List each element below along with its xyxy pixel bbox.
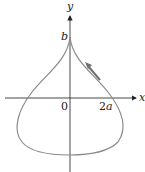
y-axis-label: y bbox=[66, 0, 74, 13]
x-tick-variable: a bbox=[106, 100, 113, 113]
direction-arrow-icon bbox=[85, 62, 100, 80]
x-tick-label: 2a bbox=[99, 100, 113, 113]
x-tick-coefficient: 2 bbox=[99, 100, 106, 113]
origin-label: 0 bbox=[61, 100, 68, 113]
curve-diagram: y x b 0 2a bbox=[0, 0, 145, 172]
x-axis-label: x bbox=[139, 91, 145, 104]
y-intercept-label: b bbox=[61, 30, 68, 43]
